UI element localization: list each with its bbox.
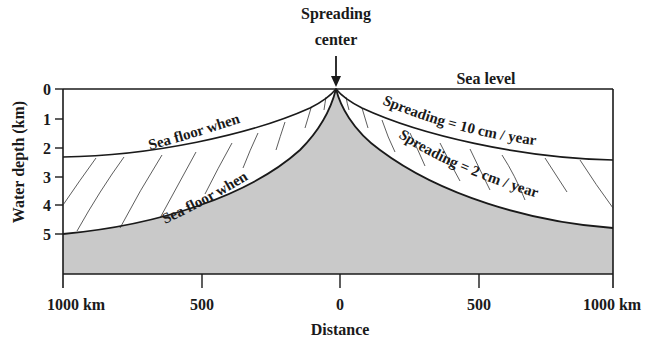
y-tick-label: 1 xyxy=(43,111,51,128)
arrow-head-icon xyxy=(331,76,341,87)
x-tick-label: 0 xyxy=(336,296,344,313)
x-tick-label: 500 xyxy=(190,296,214,313)
y-tick-label: 5 xyxy=(43,226,51,243)
x-tick-label: 1000 km xyxy=(47,296,106,313)
y-axis-label: Water depth (km) xyxy=(10,101,28,223)
title-line-1: Spreading xyxy=(301,5,371,23)
title-line-2: center xyxy=(315,31,358,48)
y-tick-label: 3 xyxy=(43,169,51,186)
y-tick-label: 0 xyxy=(43,81,51,98)
label-left-upper: Sea floor when xyxy=(147,110,243,153)
y-tick-label: 2 xyxy=(43,140,51,157)
x-tick-label: 500 xyxy=(467,296,491,313)
seafloor-profile-diagram: Spreading center Sea level Water depth (… xyxy=(0,0,667,346)
x-tick-label: 1000 km xyxy=(583,296,642,313)
sea-level-label: Sea level xyxy=(456,70,516,87)
x-axis-label: Distance xyxy=(311,321,370,338)
y-tick-label: 4 xyxy=(43,197,51,214)
